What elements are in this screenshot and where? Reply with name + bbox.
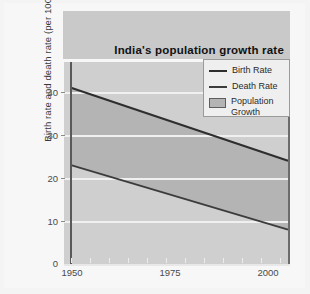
x-axis-line [64,264,290,266]
y-tick-mark-20 [61,178,65,179]
x-minor-tick-2000 [261,258,262,263]
legend-item-death-rate[interactable]: Death Rate [209,81,278,92]
x-tick-label-1950: 1950 [61,267,82,278]
legend-label-population-growth: Population Growth [231,96,274,118]
legend-item-population-growth[interactable]: Population Growth [209,96,274,118]
y-axis-title: Birth rate and death rate (per 1000) [42,0,53,151]
chart-title: India's population growth rate [114,44,284,56]
y-tick-label-20: 20 [36,173,58,184]
x-minor-tick-1980 [185,258,186,263]
legend-item-birth-rate[interactable]: Birth Rate [209,65,272,76]
legend-box-swatch-population-icon [209,98,226,108]
x-minor-tick-1950 [71,258,72,263]
x-tick-label-1975: 1975 [159,267,180,278]
y-tick-label-40: 40 [36,87,58,98]
x-minor-tick-1955 [90,258,91,263]
y-tick-mark-40 [61,92,65,93]
y-tick-mark-10 [61,221,65,222]
y-axis-spine [70,62,72,264]
y-tick-mark-30 [61,135,65,136]
legend-line-swatch-death-icon [209,86,227,88]
y-tick-label-0: 0 [36,258,58,269]
chart-figure: India's population growth rate Birth rat… [0,0,310,294]
x-minor-tick-1970 [147,258,148,263]
x-minor-tick-1995 [242,258,243,263]
x-minor-tick-1990 [223,258,224,263]
x-tick-label-2000: 2000 [257,267,278,278]
chart-legend[interactable]: Birth Rate Death Rate Population Growth [203,59,290,117]
y-tick-label-10: 10 [36,216,58,227]
x-minor-tick-1960 [109,258,110,263]
y-tick-label-30: 30 [36,130,58,141]
chart-header-band: India's population growth rate [63,11,290,59]
x-minor-tick-1985 [204,258,205,263]
x-minor-tick-1965 [128,258,129,263]
legend-label-birth-rate: Birth Rate [232,65,272,76]
legend-label-death-rate: Death Rate [232,81,278,92]
x-minor-tick-2005 [280,258,281,263]
x-minor-tick-1975 [166,258,167,263]
legend-line-swatch-birth-icon [209,70,227,72]
